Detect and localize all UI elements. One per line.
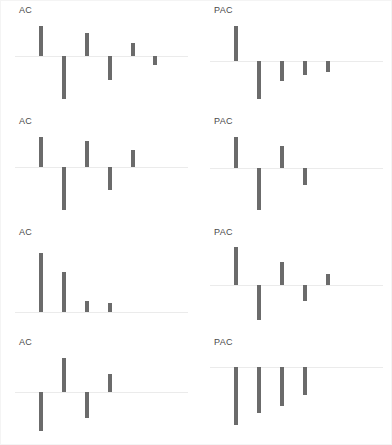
bar bbox=[85, 141, 89, 166]
plot-area bbox=[210, 241, 383, 328]
bar bbox=[108, 303, 112, 312]
bar bbox=[85, 301, 89, 312]
panel-title: AC bbox=[19, 117, 32, 126]
bar bbox=[303, 285, 307, 301]
bar bbox=[39, 392, 43, 431]
bar-series bbox=[15, 241, 188, 328]
bar-series bbox=[210, 241, 383, 328]
bar bbox=[131, 43, 135, 56]
panel-title: PAC bbox=[214, 6, 233, 15]
plot-area bbox=[15, 241, 188, 328]
panel-pac-3: PAC bbox=[196, 223, 391, 334]
bar bbox=[257, 168, 261, 209]
bar bbox=[39, 137, 43, 167]
bar-series bbox=[15, 19, 188, 106]
bar bbox=[39, 253, 43, 311]
bar bbox=[62, 167, 66, 210]
panel-title: AC bbox=[19, 338, 32, 347]
bar-series bbox=[15, 351, 188, 438]
bar bbox=[153, 56, 157, 64]
bar bbox=[257, 285, 261, 320]
panel-title: AC bbox=[19, 6, 32, 15]
panel-ac-1: AC bbox=[1, 1, 196, 112]
plot-area bbox=[210, 19, 383, 106]
bar bbox=[85, 392, 89, 417]
bar bbox=[303, 61, 307, 76]
bar bbox=[280, 146, 284, 168]
bar bbox=[234, 137, 238, 169]
bar bbox=[108, 56, 112, 80]
plot-area bbox=[15, 130, 188, 217]
correlogram-figure: ACPACACPACACPACACPAC bbox=[0, 0, 392, 445]
bar bbox=[234, 367, 238, 425]
plot-area bbox=[210, 351, 383, 438]
bar bbox=[280, 61, 284, 81]
bar-series bbox=[210, 19, 383, 106]
bar-series bbox=[15, 130, 188, 217]
bar bbox=[280, 262, 284, 285]
bar-series bbox=[210, 351, 383, 438]
bar bbox=[257, 61, 261, 99]
bar bbox=[234, 247, 238, 285]
bar bbox=[108, 374, 112, 392]
panel-pac-4: PAC bbox=[196, 333, 391, 444]
panel-ac-2: AC bbox=[1, 112, 196, 223]
bar bbox=[131, 150, 135, 166]
bar-series bbox=[210, 130, 383, 217]
panel-title: AC bbox=[19, 228, 32, 237]
bar bbox=[303, 168, 307, 184]
bar bbox=[62, 272, 66, 311]
bar bbox=[303, 367, 307, 395]
panel-pac-2: PAC bbox=[196, 112, 391, 223]
panel-grid: ACPACACPACACPACACPAC bbox=[1, 1, 391, 444]
bar bbox=[234, 26, 238, 61]
bar bbox=[326, 61, 330, 72]
bar bbox=[326, 274, 330, 286]
bar bbox=[39, 26, 43, 57]
bar bbox=[85, 33, 89, 56]
panel-ac-4: AC bbox=[1, 333, 196, 444]
bar bbox=[257, 367, 261, 413]
plot-area bbox=[210, 130, 383, 217]
panel-title: PAC bbox=[214, 338, 233, 347]
bar bbox=[62, 358, 66, 392]
plot-area bbox=[15, 351, 188, 438]
panel-pac-1: PAC bbox=[196, 1, 391, 112]
panel-ac-3: AC bbox=[1, 223, 196, 334]
plot-area bbox=[15, 19, 188, 106]
bar bbox=[280, 367, 284, 406]
bar bbox=[108, 167, 112, 191]
panel-title: PAC bbox=[214, 117, 233, 126]
panel-title: PAC bbox=[214, 228, 233, 237]
bar bbox=[62, 56, 66, 98]
